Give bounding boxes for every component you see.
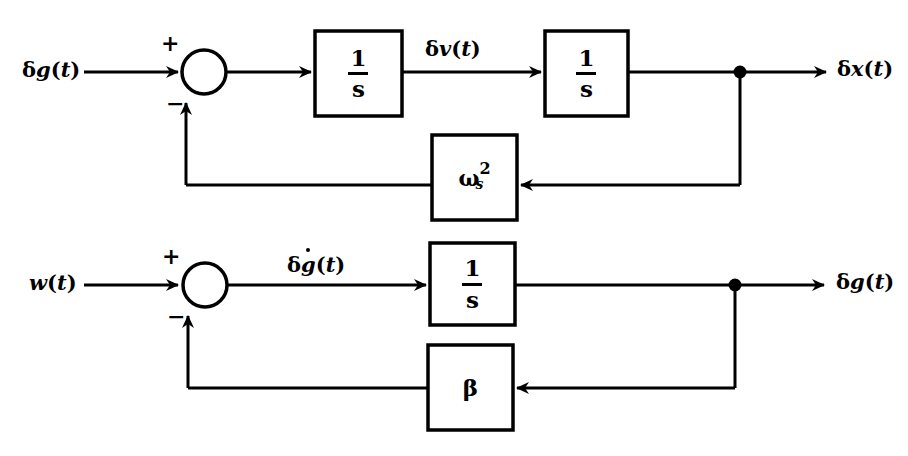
label-upper-input-paren-close: ) [70, 57, 80, 82]
label-lower-output-t: t [875, 269, 885, 294]
label-lower-input-paren-open: ( [47, 270, 57, 295]
label-lower-input-paren-close: ) [67, 270, 77, 295]
takeoff-dot-lower [729, 279, 742, 292]
label-upper-mid-paren-open: ( [451, 36, 461, 61]
block-lower-gain: β [428, 345, 513, 430]
label-upper-mid-delta: δ [425, 36, 439, 61]
sign-lower-minus: − [167, 305, 185, 327]
derivative-dot-accent: g [301, 254, 316, 275]
label-lower-mid-paren-open: ( [316, 252, 326, 277]
takeoff-dot-upper [734, 66, 747, 79]
label-upper-output-paren-open: ( [864, 56, 874, 81]
label-upper-output: δx(t) [837, 58, 893, 79]
label-upper-mid-var: v [439, 36, 451, 61]
label-upper-output-delta: δ [837, 56, 851, 81]
derivative-dot [306, 248, 310, 252]
label-lower-input-var: w [29, 270, 47, 295]
label-upper-input: δg(t) [22, 59, 80, 80]
label-lower-output-delta: δ [836, 269, 850, 294]
label-lower-output-var: g [850, 269, 865, 294]
label-upper-mid-paren-close: ) [471, 36, 481, 61]
label-lower-mid-delta: δ [287, 252, 301, 277]
fraction-denominator: s [463, 287, 482, 312]
sign-upper-minus: − [166, 92, 184, 114]
label-lower-mid-paren-close: ) [335, 252, 345, 277]
fraction-one-over-s: 1 s [347, 46, 369, 101]
fraction-denominator: s [577, 76, 596, 101]
label-lower-mid-var: g [301, 252, 316, 277]
block-upper-gain: ω2s [432, 135, 517, 220]
block-upper-integrator-2: 1 s [545, 31, 628, 116]
sign-upper-plus: + [161, 32, 179, 54]
block-diagram-canvas: δg(t) + − 1 s δv(t) 1 s δx(t) ω2s w(t) +… [0, 0, 908, 456]
fraction-numerator: 1 [347, 46, 369, 71]
label-upper-output-paren-close: ) [883, 56, 893, 81]
label-lower-input: w(t) [29, 272, 77, 293]
label-lower-mid-t: t [326, 252, 336, 277]
fraction-one-over-s: 1 s [461, 256, 483, 311]
sign-lower-plus: + [162, 245, 180, 267]
omega-subscript: s [475, 176, 483, 192]
label-upper-input-paren-open: ( [51, 57, 61, 82]
label-upper-output-t: t [873, 56, 883, 81]
label-upper-mid-signal: δv(t) [425, 38, 481, 59]
label-lower-output-paren-open: ( [865, 269, 875, 294]
label-lower-input-t: t [57, 270, 67, 295]
label-upper-mid-t: t [461, 36, 471, 61]
fraction-numerator: 1 [461, 256, 483, 281]
block-lower-integrator: 1 s [430, 243, 515, 325]
label-upper-input-delta: δ [22, 57, 36, 82]
label-upper-output-var: x [851, 56, 864, 81]
label-lower-mid-signal: δg(t) [287, 254, 345, 275]
summing-junction-upper [182, 50, 226, 94]
label-lower-output-paren-close: ) [884, 269, 894, 294]
fraction-one-over-s: 1 s [575, 46, 597, 101]
fraction-denominator: s [349, 76, 368, 101]
block-upper-integrator-1: 1 s [315, 31, 402, 116]
label-lower-output: δg(t) [836, 271, 894, 292]
label-upper-input-t: t [61, 57, 71, 82]
label-upper-input-var: g [36, 57, 51, 82]
beta-symbol: β [463, 374, 478, 401]
omega-squared-s-expression: ω2s [458, 163, 490, 191]
summing-junction-lower [183, 263, 227, 307]
fraction-numerator: 1 [575, 46, 597, 71]
